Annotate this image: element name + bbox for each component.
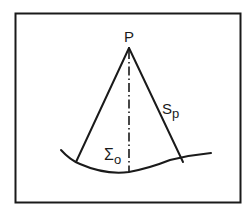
surface-label-main: Σ — [104, 146, 114, 163]
surface-label-subscript: o — [114, 152, 121, 167]
slant-label-subscript: p — [172, 106, 179, 121]
right-cone-line — [129, 48, 183, 162]
slant-label: Sp — [162, 100, 179, 121]
surface-curve — [61, 150, 211, 173]
surface-label: Σo — [104, 146, 121, 167]
left-cone-line — [76, 48, 129, 162]
apex-label: P — [124, 28, 134, 45]
diagram-canvas: P Sp Σo — [0, 0, 250, 217]
slant-label-main: S — [162, 100, 172, 117]
